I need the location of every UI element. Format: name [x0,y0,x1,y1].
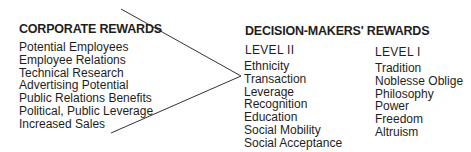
list-item: Altruism [375,126,463,139]
level-2-list: Ethnicity Transaction Leverage Recogniti… [244,60,342,150]
list-item: Political, Public Leverage [19,105,153,118]
list-item: Increased Sales [19,118,153,131]
list-item: Social Acceptance [244,137,342,150]
list-item: Employee Relations [19,54,153,67]
decision-makers-rewards-title: DECISION-MAKERS' REWARDS [245,24,429,38]
list-item: Potential Employees [19,41,153,54]
level-1-list: Tradition Noblesse Oblige Philosophy Pow… [375,62,463,139]
list-item: Social Mobility [244,124,342,137]
corporate-rewards-list: Potential Employees Employee Relations T… [19,41,153,131]
list-item: Tradition [375,62,463,75]
list-item: Ethnicity [244,60,342,73]
level-2-label: LEVEL II [245,43,294,57]
level-1-label: LEVEL I [375,45,421,59]
list-item: Transaction [244,73,342,86]
list-item: Noblesse Oblige [375,75,463,88]
corporate-rewards-title: CORPORATE REWARDS [19,22,162,36]
